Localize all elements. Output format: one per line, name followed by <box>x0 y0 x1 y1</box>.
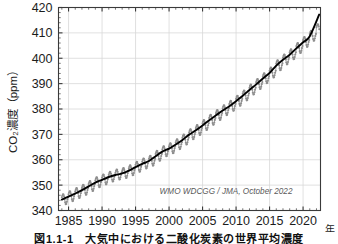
figure-caption: 図1.1-1 大気中における二酸化炭素の世界平均濃度 <box>0 233 338 244</box>
co2-concentration-chart: 3403503603703803904004104201985199019952… <box>0 0 338 232</box>
y-tick-label: 410 <box>32 26 53 40</box>
x-tick-label: 2010 <box>222 214 250 228</box>
x-tick-label: 1995 <box>122 214 150 228</box>
y-tick-label: 370 <box>32 128 53 142</box>
y-tick-label: 340 <box>32 204 53 218</box>
figure-co2-global-mean: 3403503603703803904004104201985199019952… <box>0 0 338 244</box>
y-tick-label: 380 <box>32 102 53 116</box>
data-source-credit: WMO WDCGG / JMA, October 2022 <box>160 187 293 196</box>
y-tick-label: 390 <box>32 77 53 91</box>
x-tick-label: 2005 <box>189 214 217 228</box>
y-tick-label: 420 <box>32 1 53 15</box>
x-axis-unit-label: 年 <box>325 223 335 233</box>
x-tick-label: 1985 <box>55 214 83 228</box>
y-tick-label: 400 <box>32 52 53 66</box>
x-tick-label: 1990 <box>88 214 116 228</box>
y-tick-label: 350 <box>32 179 53 193</box>
x-tick-label: 2015 <box>256 214 284 228</box>
y-tick-label: 360 <box>32 153 53 167</box>
y-axis-title: CO₂濃度（ppm） <box>6 65 19 153</box>
x-tick-label: 2020 <box>289 214 317 228</box>
x-tick-label: 2000 <box>155 214 183 228</box>
